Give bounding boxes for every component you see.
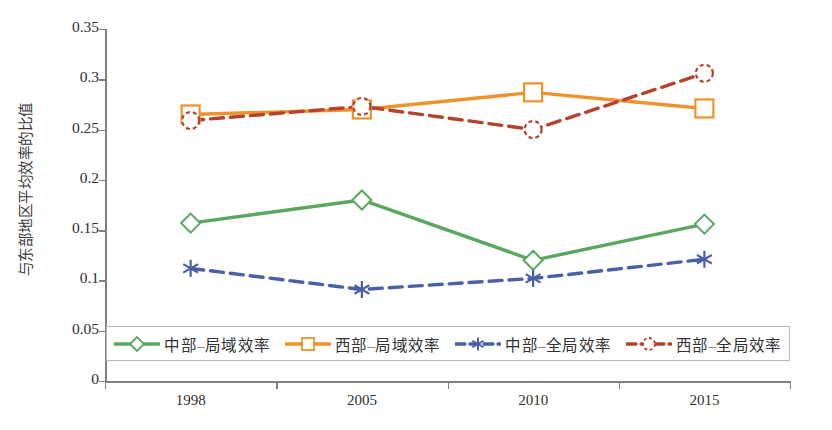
series-0 [191,200,705,260]
legend-item-3[interactable]: 西部–全局效率 [626,333,782,355]
legend-marker-diamond-icon [114,335,160,353]
legend-marker-circle-icon [626,335,672,353]
data-point-circle [525,121,542,138]
data-point-circle [182,112,199,129]
data-point-square [524,83,542,101]
series-1 [191,92,705,114]
data-point-diamond [181,214,200,233]
series-markers-2 [183,251,712,298]
chart-legend: 中部–局域效率西部–局域效率中部–全局效率西部–全局效率 [106,326,790,361]
series-2 [191,259,705,289]
legend-item-2[interactable]: 中部–全局效率 [455,333,611,355]
legend-label-2: 中部–全局效率 [505,333,611,355]
data-point-circle [696,65,713,82]
legend-label-0: 中部–局域效率 [164,333,270,355]
data-point-diamond [524,251,543,270]
legend-item-0[interactable]: 中部–局域效率 [114,333,270,355]
legend-marker-square-icon [285,335,331,353]
line-chart: 与东部地区平均效率的比值 00.050.10.150.20.250.30.35 … [0,0,832,430]
data-point-circle [353,98,370,115]
legend-label-1: 西部–局域效率 [335,333,441,355]
data-point-square [695,99,713,117]
legend-marker-asterisk-icon [455,335,501,353]
data-point-diamond [352,190,371,209]
legend-item-1[interactable]: 西部–局域效率 [285,333,441,355]
series-layer [0,0,832,430]
legend-label-3: 西部–全局效率 [676,333,782,355]
data-point-diamond [695,215,714,234]
